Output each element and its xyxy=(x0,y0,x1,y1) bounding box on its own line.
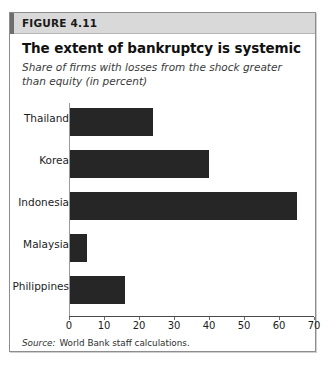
bar-track xyxy=(69,192,313,220)
bar-row: Philippines xyxy=(10,269,317,311)
bar-row: Thailand xyxy=(10,101,317,143)
y-axis-line xyxy=(69,103,70,316)
bar-category-label: Philippines xyxy=(0,280,69,292)
x-axis-tick-label: 40 xyxy=(203,320,216,331)
bar-category-label: Malaysia xyxy=(0,238,69,250)
bar-thailand xyxy=(69,108,153,136)
x-axis-tick-label: 50 xyxy=(238,320,251,331)
x-axis-tick-label: 10 xyxy=(98,320,111,331)
bar-korea xyxy=(69,150,209,178)
bar-row: Malaysia xyxy=(10,227,317,269)
x-axis-tick-label: 0 xyxy=(66,320,72,331)
figure-source: Source:World Bank staff calculations. xyxy=(22,338,190,348)
bar-category-label: Indonesia xyxy=(0,196,69,208)
x-axis-line xyxy=(69,316,314,317)
figure-panel: FIGURE 4.11 The extent of bankruptcy is … xyxy=(9,12,316,352)
bar-track xyxy=(69,150,313,178)
bar-track xyxy=(69,108,313,136)
figure-title: The extent of bankruptcy is systemic xyxy=(22,40,307,56)
bar-philippines xyxy=(69,276,125,304)
figure-number: FIGURE 4.11 xyxy=(14,17,97,29)
bar-malaysia xyxy=(69,234,87,262)
bar-row: Indonesia xyxy=(10,185,317,227)
source-text: World Bank staff calculations. xyxy=(59,338,189,348)
bar-category-label: Korea xyxy=(0,154,69,166)
x-axis-tick-label: 30 xyxy=(168,320,181,331)
bar-category-label: Thailand xyxy=(0,112,69,124)
x-axis-tick-label: 70 xyxy=(308,320,321,331)
bar-indonesia xyxy=(69,192,297,220)
x-axis-tick-label: 60 xyxy=(273,320,286,331)
bar-chart-plot: ThailandKoreaIndonesiaMalaysiaPhilippine… xyxy=(10,101,317,316)
page-edge xyxy=(0,0,330,8)
bar-track xyxy=(69,234,313,262)
bar-row: Korea xyxy=(10,143,317,185)
bar-track xyxy=(69,276,313,304)
figure-subtitle: Share of firms with losses from the shoc… xyxy=(22,60,300,88)
figure-header-band: FIGURE 4.11 xyxy=(10,13,315,34)
x-axis-tick-label: 20 xyxy=(133,320,146,331)
source-label: Source: xyxy=(22,338,55,348)
